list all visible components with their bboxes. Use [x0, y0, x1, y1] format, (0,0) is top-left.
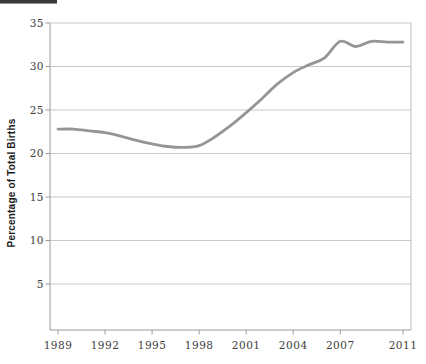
x-tick-label-2004: 2004 — [279, 339, 308, 351]
x-tick-label-1989: 1989 — [44, 339, 73, 351]
x-tick-label-2007: 2007 — [326, 339, 355, 351]
y-tick-label-5: 5 — [37, 278, 44, 290]
y-tick-label-30: 30 — [30, 60, 44, 72]
y-tick-label-25: 25 — [30, 104, 44, 116]
x-tick-label-1998: 1998 — [185, 339, 214, 351]
x-tick-label-1992: 1992 — [91, 339, 120, 351]
y-tick-label-35: 35 — [30, 17, 44, 29]
y-tick-label-20: 20 — [30, 147, 44, 159]
data-series-line — [58, 41, 403, 147]
y-tick-label-15: 15 — [30, 191, 44, 203]
x-tick-label-2001: 2001 — [232, 339, 261, 351]
x-tick-label-1995: 1995 — [138, 339, 167, 351]
line-chart-canvas: 5101520253035198919921995199820012004200… — [0, 0, 426, 364]
x-tick-label-2011: 2011 — [389, 339, 418, 351]
births-line-chart-figure: Percentage of Total Births 5101520253035… — [0, 0, 426, 364]
y-tick-label-10: 10 — [30, 234, 44, 246]
